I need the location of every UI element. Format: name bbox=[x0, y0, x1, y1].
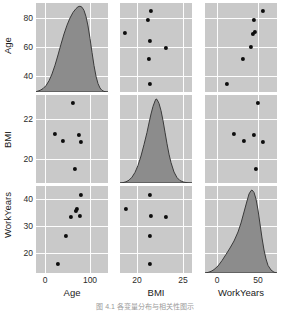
y-ticks-age: 80 60 40 bbox=[14, 0, 35, 92]
data-point bbox=[73, 167, 77, 171]
data-point bbox=[164, 215, 168, 219]
data-point bbox=[148, 193, 152, 197]
gridline bbox=[258, 3, 259, 92]
data-point bbox=[242, 139, 246, 143]
y-tick: 20 bbox=[24, 248, 33, 258]
y-tick: 60 bbox=[24, 42, 33, 52]
gridline bbox=[36, 159, 108, 160]
y-tick: 40 bbox=[24, 71, 33, 81]
y-ticks-workyears: 40 30 20 bbox=[14, 186, 35, 274]
data-point bbox=[124, 207, 128, 211]
data-point bbox=[146, 18, 150, 22]
panel-workyears-workyears bbox=[205, 186, 277, 273]
gridline bbox=[120, 18, 192, 19]
gridline bbox=[183, 186, 184, 273]
x-tick: 0 bbox=[43, 275, 48, 285]
data-point bbox=[77, 133, 81, 137]
panel-bmi-age bbox=[36, 95, 108, 183]
gridline bbox=[183, 3, 184, 92]
gridline bbox=[120, 47, 192, 48]
gridline bbox=[137, 186, 138, 273]
data-point bbox=[69, 215, 73, 219]
y-tick: 30 bbox=[24, 221, 33, 231]
panel-bmi-workyears bbox=[205, 95, 277, 183]
y-tick: 22 bbox=[24, 114, 33, 124]
panel-age-age bbox=[36, 3, 108, 92]
data-point bbox=[79, 140, 83, 144]
data-point bbox=[53, 132, 57, 136]
data-point bbox=[79, 193, 83, 197]
gridline bbox=[120, 76, 192, 77]
data-point bbox=[64, 234, 68, 238]
gridline bbox=[36, 199, 108, 200]
gridline bbox=[205, 76, 277, 77]
panel-age-bmi bbox=[120, 3, 192, 92]
gridline bbox=[120, 253, 192, 254]
data-point bbox=[61, 139, 65, 143]
data-point bbox=[252, 18, 256, 22]
data-point bbox=[148, 234, 152, 238]
x-tick: 0 bbox=[215, 275, 220, 285]
data-point bbox=[56, 262, 60, 266]
gridline bbox=[36, 119, 108, 120]
data-point bbox=[123, 31, 127, 35]
data-point bbox=[241, 57, 245, 61]
gridline bbox=[36, 226, 108, 227]
gridline bbox=[120, 199, 192, 200]
figure-caption: 图 4.1 各变量分布与相关性图示 bbox=[0, 301, 290, 311]
x-tick: 100 bbox=[83, 275, 97, 285]
gridline bbox=[45, 186, 46, 273]
x-ticks-workyears: 0 50 bbox=[205, 275, 277, 287]
x-ticks-age: 0 100 bbox=[36, 275, 108, 287]
data-point bbox=[232, 132, 236, 136]
data-point bbox=[251, 32, 255, 36]
x-axis-label-age: Age bbox=[36, 287, 108, 298]
gridline bbox=[217, 3, 218, 92]
x-tick: 25 bbox=[178, 275, 187, 285]
data-point bbox=[256, 101, 260, 105]
density-curve-bmi bbox=[120, 95, 192, 183]
data-point bbox=[252, 133, 256, 137]
data-point bbox=[74, 209, 78, 213]
data-point bbox=[249, 45, 253, 49]
data-point bbox=[164, 46, 168, 50]
gridline bbox=[205, 18, 277, 19]
x-axis-label-workyears: WorkYears bbox=[205, 287, 277, 298]
y-ticks-bmi: 22 20 bbox=[14, 95, 35, 185]
panel-age-workyears bbox=[205, 3, 277, 92]
panel-workyears-bmi bbox=[120, 186, 192, 273]
gridline bbox=[120, 226, 192, 227]
gridline bbox=[137, 3, 138, 92]
gridline bbox=[258, 95, 259, 183]
data-point bbox=[148, 82, 152, 86]
data-point bbox=[261, 9, 265, 13]
y-tick: 20 bbox=[24, 154, 33, 164]
data-point bbox=[148, 39, 152, 43]
data-point bbox=[149, 214, 153, 218]
density-curve-workyears bbox=[205, 186, 277, 273]
gridline bbox=[36, 253, 108, 254]
x-axis-label-bmi: BMI bbox=[120, 287, 192, 298]
panel-workyears-age bbox=[36, 186, 108, 273]
scatterplot-matrix: Age 80 60 40 bbox=[0, 0, 290, 275]
gridline bbox=[90, 186, 91, 273]
data-point bbox=[78, 214, 82, 218]
x-ticks-bmi: 20 25 bbox=[120, 275, 192, 287]
gridline bbox=[45, 95, 46, 183]
y-tick: 80 bbox=[24, 13, 33, 23]
data-point bbox=[148, 262, 152, 266]
data-point bbox=[225, 82, 229, 86]
gridline bbox=[205, 159, 277, 160]
gridline bbox=[205, 47, 277, 48]
density-curve-age bbox=[36, 3, 108, 92]
y-tick: 40 bbox=[24, 194, 33, 204]
gridline bbox=[90, 95, 91, 183]
gridline bbox=[205, 119, 277, 120]
gridline bbox=[217, 95, 218, 183]
data-point bbox=[147, 57, 151, 61]
data-point bbox=[71, 101, 75, 105]
data-point bbox=[149, 9, 153, 13]
x-tick: 50 bbox=[253, 275, 262, 285]
data-point bbox=[261, 140, 265, 144]
